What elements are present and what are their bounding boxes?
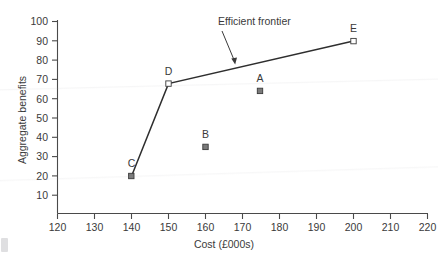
x-tick-label-190: 190 [308,221,326,233]
y-tick-label-10: 10 [36,189,48,201]
point-label-A: A [256,72,263,84]
data-point-E[interactable]: E [350,22,357,44]
x-tick-label-150: 150 [160,221,178,233]
x-tick-label-120: 120 [49,221,67,233]
chart-figure: 100 90 80 70 60 50 40 30 20 10 Aggregate… [0,0,438,258]
x-tick-label-180: 180 [271,221,289,233]
efficient-frontier-line [132,41,354,176]
efficient-frontier-scatter-chart: 100 90 80 70 60 50 40 30 20 10 Aggregate… [0,0,438,258]
scan-corner-smudge [1,238,8,252]
y-tick-label-70: 70 [36,73,48,85]
data-point-C[interactable]: C [128,157,136,179]
x-axis: 120 130 140 150 160 170 180 190 200 210 … [49,214,437,251]
marker-square-A [257,88,262,93]
marker-square-C [129,173,134,178]
data-point-D[interactable]: D [165,65,173,87]
annotation-arrow-shaft [222,31,235,61]
y-axis: 100 90 80 70 60 50 40 30 20 10 Aggregate… [16,15,58,213]
x-tick-label-200: 200 [345,221,363,233]
x-axis-title: Cost (£000s) [194,238,254,250]
marker-square-B [203,144,208,149]
data-point-A[interactable]: A [256,72,263,94]
marker-square-E [351,38,356,43]
x-tick-label-160: 160 [197,221,215,233]
y-tick-label-90: 90 [36,35,48,47]
point-label-E: E [350,22,357,34]
y-tick-label-50: 50 [36,112,48,124]
point-label-C: C [128,157,136,169]
point-label-D: D [165,65,173,77]
x-tick-label-210: 210 [382,221,400,233]
point-label-B: B [202,128,209,140]
y-tick-label-80: 80 [36,54,48,66]
annotation-arrow-head-icon [231,57,237,64]
y-tick-label-30: 30 [36,150,48,162]
x-tick-label-220: 220 [419,221,437,233]
y-tick-label-40: 40 [36,131,48,143]
y-axis-title: Aggregate benefits [16,76,28,164]
data-point-B[interactable]: B [202,128,209,150]
x-tick-label-130: 130 [86,221,104,233]
y-tick-label-60: 60 [36,93,48,105]
y-tick-label-20: 20 [36,170,48,182]
y-tick-label-100: 100 [30,15,48,27]
marker-square-D [166,81,171,86]
x-axis-ticks [58,214,428,220]
y-axis-ticks [52,22,58,196]
annotation-label: Efficient frontier [218,15,291,27]
efficient-frontier-annotation: Efficient frontier [218,15,291,65]
x-tick-label-140: 140 [123,221,141,233]
x-tick-label-170: 170 [234,221,252,233]
